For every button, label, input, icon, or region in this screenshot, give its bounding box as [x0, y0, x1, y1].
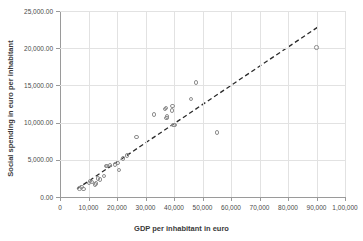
data-point [215, 130, 219, 134]
x-axis-tick [146, 197, 147, 201]
gridline-vertical [146, 11, 147, 197]
y-axis-tick [56, 123, 60, 124]
data-point [314, 45, 318, 49]
y-axis-tick [56, 11, 60, 12]
data-point [194, 80, 198, 84]
x-axis-tick [60, 197, 61, 201]
y-axis-tick [56, 160, 60, 161]
data-point [115, 161, 119, 165]
x-axis-tick [345, 197, 346, 201]
x-axis-tick [260, 197, 261, 201]
data-point [152, 112, 156, 116]
data-point [164, 106, 168, 110]
scatter-chart: GDP per inhabitant in euro Social spendi… [0, 0, 363, 241]
y-axis-tick [56, 48, 60, 49]
gridline-vertical [260, 11, 261, 197]
y-axis-tick [56, 85, 60, 86]
y-axis-tick-label: 5,000.00 [28, 156, 53, 163]
data-point [125, 153, 129, 157]
gridline-vertical [231, 11, 232, 197]
data-point [170, 108, 174, 112]
x-axis-tick-label: 1,00,000 [325, 204, 363, 211]
gridline-vertical [345, 11, 346, 197]
x-axis-tick [117, 197, 118, 201]
y-axis-tick-label: 10,000.00 [24, 119, 53, 126]
y-axis-tick-label: 25,000.00 [24, 8, 53, 15]
y-axis-tick-label: 0.00 [40, 194, 53, 201]
gridline-vertical [317, 11, 318, 197]
x-axis-tick [174, 197, 175, 201]
data-point [94, 181, 98, 185]
data-point [98, 177, 102, 181]
x-axis-tick [89, 197, 90, 201]
x-axis-tick [288, 197, 289, 201]
x-axis-tick [317, 197, 318, 201]
plot-area [60, 11, 345, 197]
y-axis-tick-label: 20,000.00 [24, 45, 53, 52]
x-axis-tick [203, 197, 204, 201]
y-axis-tick-label: 15,000.00 [24, 82, 53, 89]
y-axis-title: Social spending in euro per inhabitant [6, 24, 15, 194]
gridline-vertical [89, 11, 90, 197]
gridline-vertical [203, 11, 204, 197]
x-axis-title: GDP per inhabitant in euro [0, 224, 363, 233]
gridline-vertical [288, 11, 289, 197]
data-point [189, 97, 193, 101]
x-axis-tick [231, 197, 232, 201]
